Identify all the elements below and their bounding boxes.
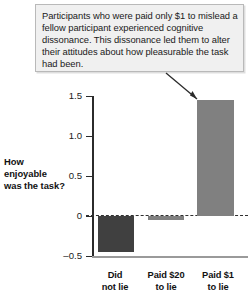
y-tick-label-1.5: 1.5 <box>42 90 82 101</box>
y-tick-1.0 <box>86 136 92 137</box>
bar-did-not-lie[interactable] <box>98 216 134 252</box>
y-tick-label--0.5: –0.5 <box>42 250 82 261</box>
y-tick-0 <box>86 216 92 217</box>
y-tick-0.5 <box>86 176 92 177</box>
y-tick-label-0.5: 0.5 <box>42 170 82 181</box>
x-category-label-did-not-lie: Didnot lie <box>90 270 140 293</box>
y-axis-line <box>92 96 94 257</box>
y-tick-label-0: 0 <box>42 210 82 221</box>
y-tick-1.5 <box>86 96 92 97</box>
figure-container: Participants who were paid only $1 to mi… <box>0 0 250 305</box>
x-category-label-paid-20-to-lie: Paid $20to lie <box>138 270 194 293</box>
plot-area: How enjoyable was the task? 1.5 1.0 0.5 … <box>0 0 250 305</box>
y-tick-label-1.0: 1.0 <box>42 130 82 141</box>
bar-paid-1-to-lie[interactable] <box>197 100 234 216</box>
y-tick--0.5 <box>86 256 92 257</box>
x-category-label-paid-1-to-lie: Paid $1to lie <box>190 270 246 293</box>
x-axis-line <box>92 256 248 258</box>
bar-paid-20-to-lie[interactable] <box>148 216 184 220</box>
